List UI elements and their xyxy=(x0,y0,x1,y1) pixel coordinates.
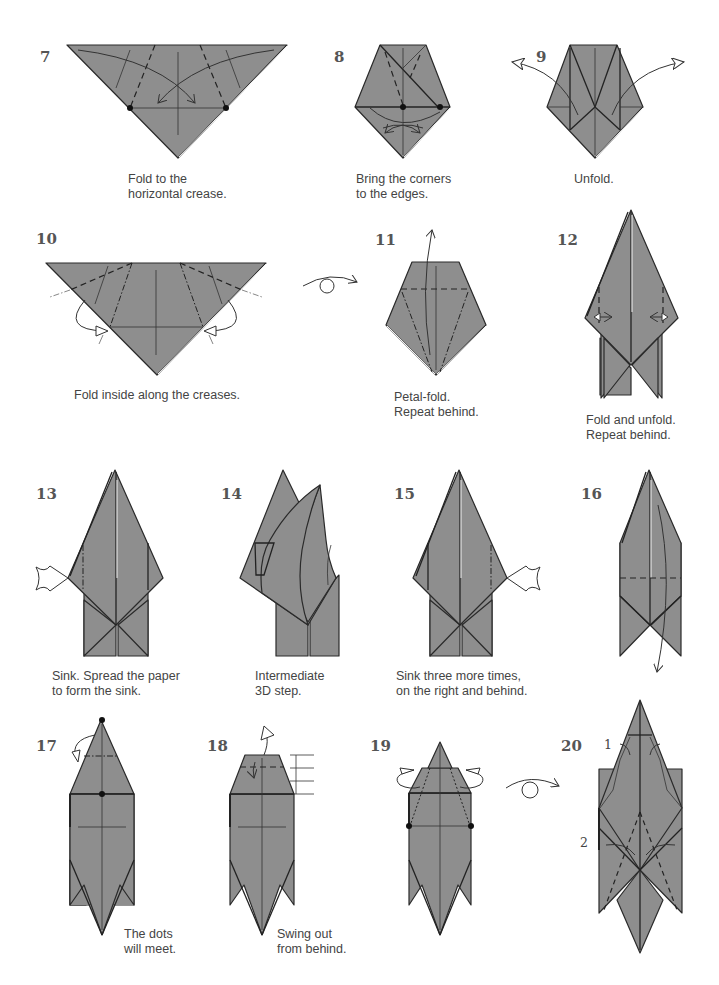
sink-arrow-icon xyxy=(36,566,68,591)
step-12-diagram xyxy=(585,210,678,398)
sink-arrow-icon xyxy=(507,566,540,591)
diagram-drawings xyxy=(0,0,719,985)
step-8-diagram xyxy=(355,45,450,158)
step-7-diagram xyxy=(67,45,287,158)
step-14-diagram xyxy=(240,470,339,656)
turn-over-icon xyxy=(303,277,357,293)
step-10-diagram xyxy=(46,263,266,375)
step-11-diagram xyxy=(386,230,486,375)
step-19-diagram xyxy=(397,742,483,935)
step-17-diagram xyxy=(70,717,134,935)
dot-marker-icon xyxy=(127,105,133,111)
equal-division-marks-icon xyxy=(290,755,314,794)
step-15-diagram xyxy=(413,470,540,656)
dot-marker-icon xyxy=(223,105,229,111)
step-20-diagram xyxy=(599,700,682,953)
step-16-diagram xyxy=(620,470,681,672)
origami-diagram-page: 7 8 9 10 11 12 13 14 15 16 17 18 19 20 F… xyxy=(0,0,719,985)
step-18-diagram xyxy=(230,726,314,935)
turn-over-icon xyxy=(506,779,559,798)
step-13-diagram xyxy=(36,470,163,656)
step-9-diagram xyxy=(512,45,684,158)
